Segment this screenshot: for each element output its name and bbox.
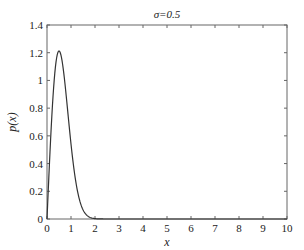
y-tick-label: 1 <box>38 74 44 86</box>
x-tick-label: 2 <box>92 222 98 234</box>
x-tick-label: 10 <box>282 222 294 234</box>
y-tick-label: 0.6 <box>29 130 43 142</box>
chart-title: σ=0.5 <box>154 8 181 20</box>
y-tick-label: 0 <box>38 213 44 225</box>
x-axis-ticks: 012345678910 <box>44 25 293 234</box>
x-tick-label: 6 <box>188 222 194 234</box>
x-tick-label: 0 <box>44 222 50 234</box>
x-tick-label: 9 <box>260 222 266 234</box>
y-tick-label: 1.4 <box>29 19 43 31</box>
x-tick-label: 4 <box>140 222 146 234</box>
y-axis-ticks: 00.20.40.60.811.21.4 <box>29 19 287 225</box>
plot-area <box>47 25 287 219</box>
x-tick-label: 8 <box>236 222 242 234</box>
y-axis-label: p(x) <box>5 112 19 132</box>
x-tick-label: 7 <box>212 222 218 234</box>
y-tick-label: 0.4 <box>29 158 43 170</box>
x-tick-label: 1 <box>68 222 74 234</box>
x-tick-label: 5 <box>164 222 170 234</box>
y-tick-label: 0.8 <box>29 102 43 114</box>
y-tick-label: 1.2 <box>29 47 43 59</box>
x-axis-label: x <box>163 235 170 249</box>
density-curve <box>47 51 287 219</box>
chart: σ=0.5 012345678910 00.20.40.60.811.21.4 … <box>0 0 304 250</box>
y-tick-label: 0.2 <box>29 185 43 197</box>
x-tick-label: 3 <box>116 222 122 234</box>
